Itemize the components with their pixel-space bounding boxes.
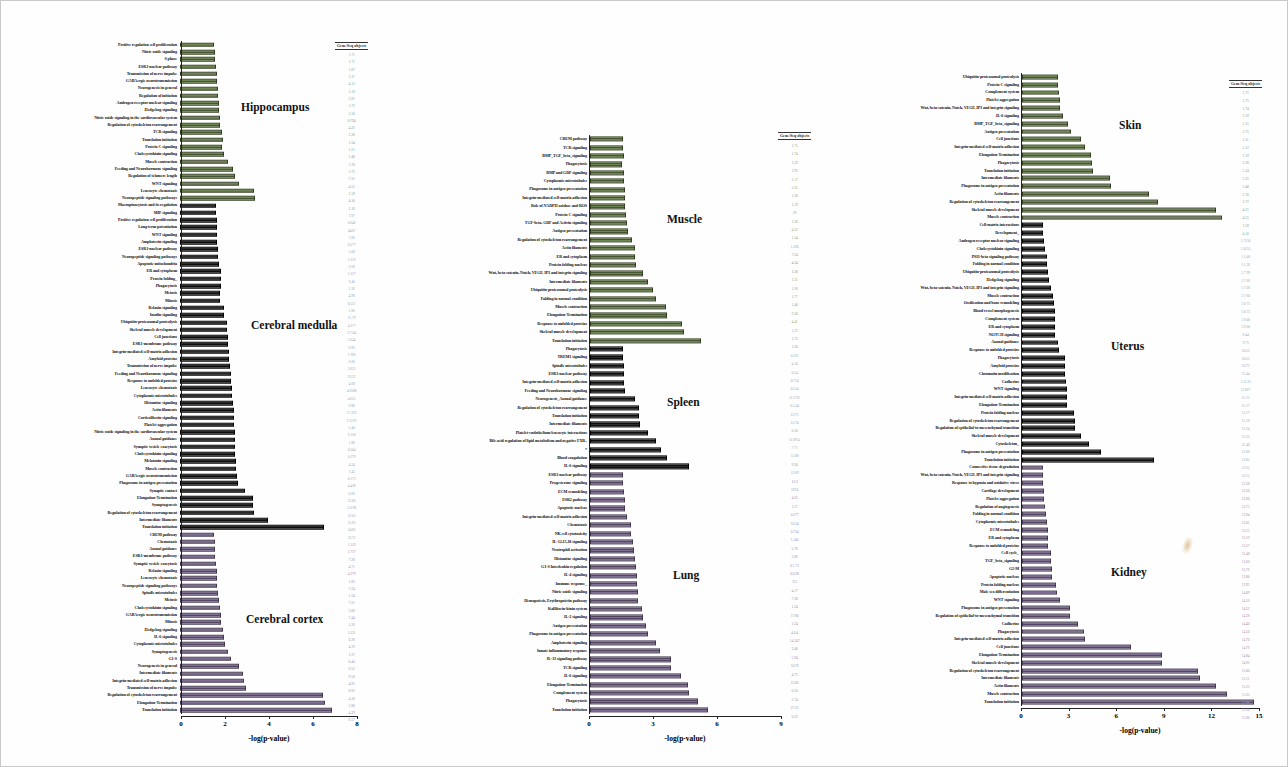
bar-purple xyxy=(1022,645,1131,650)
pathway-label: Translation initiation xyxy=(1,138,180,142)
legend-value: 4.31 xyxy=(1229,207,1262,215)
bar-row: Cadherins xyxy=(861,620,1288,628)
bar-green xyxy=(180,159,228,164)
legend-value: 3.7.04 xyxy=(335,330,368,337)
bar-track xyxy=(180,70,431,77)
bar-black xyxy=(590,380,624,385)
x-tick xyxy=(181,716,182,719)
bar-track xyxy=(180,524,431,531)
bar-black xyxy=(1022,379,1066,384)
panel-muscle-spleen-lung: CREM pathwayTCR signalingBMP_TGF_beta_si… xyxy=(431,1,861,767)
bar-black xyxy=(1022,387,1067,392)
pathway-label: Transmission of nerve impulse xyxy=(1,364,180,368)
pathway-label: G1-S xyxy=(1,657,180,661)
pathway-label: Elongation-Termination xyxy=(861,153,1022,157)
pathway-label: Amyloid proteins xyxy=(1,357,180,361)
legend-value: 1.8.73 xyxy=(1229,309,1262,317)
legend-value: 9.94 xyxy=(778,461,811,469)
bar-track xyxy=(180,187,431,194)
legend-value: 5.76 xyxy=(778,545,811,553)
bar-black xyxy=(180,284,221,289)
legend-value: 25.06 xyxy=(335,498,368,505)
pathway-label: Histamine signaling xyxy=(431,557,590,561)
bar-row: Cell junctions xyxy=(861,643,1288,651)
bar-green xyxy=(590,304,666,309)
legend-value: 4.6588 xyxy=(335,388,368,395)
bar-black xyxy=(180,364,230,369)
pathway-label: Meiosis xyxy=(1,598,180,602)
legend-value: 15.00 xyxy=(1229,668,1262,676)
legend-value: 4.12 xyxy=(335,81,368,88)
pathway-label: ER and cytoplasm xyxy=(1,269,180,273)
legend-value: 0.514 xyxy=(778,385,811,393)
legend-value: 0.66 xyxy=(335,491,368,498)
bar-row: IL-6 signaling xyxy=(861,112,1288,120)
pathway-label: Phagosome in antigen presentation xyxy=(431,187,590,191)
pathway-label: Intermediate filaments xyxy=(1,518,180,522)
legend-value: 4.68 xyxy=(335,381,368,388)
pathway-label: ESR1-nuclear pathway xyxy=(431,372,590,376)
legend-values: 1.711.751.741.591.551.751.111.121.191.20… xyxy=(1229,90,1262,715)
pathway-label: Regulation of angiogenesis xyxy=(861,505,1022,509)
bar-track xyxy=(590,513,861,521)
pathway-label: Protein C signaling xyxy=(861,83,1022,87)
legend-value: 4.29 xyxy=(335,710,368,717)
bar-track xyxy=(590,521,861,529)
bar-row: ER and cytoplasm xyxy=(861,323,1288,331)
pathway-label: Nitric oxide signaling in the cardiovasc… xyxy=(1,116,180,120)
legend-value: 1.24 xyxy=(1229,168,1262,176)
legend-value: 4422 xyxy=(335,228,368,235)
bar-purple xyxy=(590,573,637,578)
legend-value: 11.31 xyxy=(1229,434,1262,442)
bar-row: Integrin-mediated cell-matrix adhesion xyxy=(861,636,1288,644)
x-tick-label: 2 xyxy=(223,720,227,728)
pathway-label: Progesterone signaling xyxy=(431,481,590,485)
pathway-label: MIF signaling xyxy=(1,211,180,215)
bar-row: Integrin-mediated cell-matrix adhesion xyxy=(861,393,1288,401)
bar-purple xyxy=(180,554,215,559)
legend-value: 1.40 xyxy=(778,301,811,309)
bar-black xyxy=(1022,418,1075,423)
legend-value: 9.80 xyxy=(335,403,368,410)
x-tick xyxy=(717,716,718,719)
bar-track xyxy=(590,596,861,604)
bar-track xyxy=(180,143,431,150)
bar-track xyxy=(590,177,861,185)
pathway-label: Spindle microtubules xyxy=(431,364,590,368)
legend-value: 1.7.20 xyxy=(1229,285,1262,293)
bar-green xyxy=(180,189,254,194)
bar-purple xyxy=(1022,551,1051,556)
bar-green xyxy=(590,212,626,217)
pathway-label: Elongation-Termination xyxy=(431,313,590,317)
bar-green xyxy=(1022,129,1071,134)
pathway-label: Wnt, beta-catenin, Notch, VEGF, IP3 and … xyxy=(431,271,590,275)
pathway-label: Skeletal muscle development xyxy=(861,434,1022,438)
bar-track xyxy=(180,706,431,713)
bar-track xyxy=(590,647,861,655)
legend-value: 0.50 xyxy=(778,687,811,695)
pathway-label: CREM pathway xyxy=(431,137,590,141)
legend-value: 1.48 xyxy=(1229,184,1262,192)
legend-value: 0.173 xyxy=(335,476,368,483)
pathway-label: Regulation of cytoskeleton rearrangement xyxy=(861,200,1022,204)
pathway-label: WNT signaling xyxy=(861,387,1022,391)
panel-skin-uterus-kidney: Ubiquitin-proteasomal proteolysisProtein… xyxy=(861,1,1288,767)
bar-purple xyxy=(180,664,239,669)
bar-track xyxy=(180,480,431,487)
bar-track xyxy=(590,412,861,420)
bar-row: Response to unfolded proteins xyxy=(861,542,1288,550)
bar-track xyxy=(180,151,431,158)
pathway-label: IL-6 signaling xyxy=(431,674,590,678)
pathway-label: Blood vessel morphogenesis xyxy=(861,309,1022,313)
legend-value: 1.59 xyxy=(335,191,368,198)
pathway-label: Phagocytosis xyxy=(861,630,1022,634)
x-tick xyxy=(313,716,314,719)
bar-black xyxy=(180,291,220,296)
legend-value: 0.714 xyxy=(778,377,811,385)
bar-row: BMP_TGF_beta_signaling xyxy=(861,120,1288,128)
legend-value: 1.9.00 xyxy=(1229,317,1262,325)
x-tick-label: 6 xyxy=(311,720,315,728)
legend-value: 7.24 xyxy=(778,251,811,259)
bar-row: Skeletal muscle development xyxy=(861,659,1288,667)
legend-value: 0.122 xyxy=(778,352,811,360)
